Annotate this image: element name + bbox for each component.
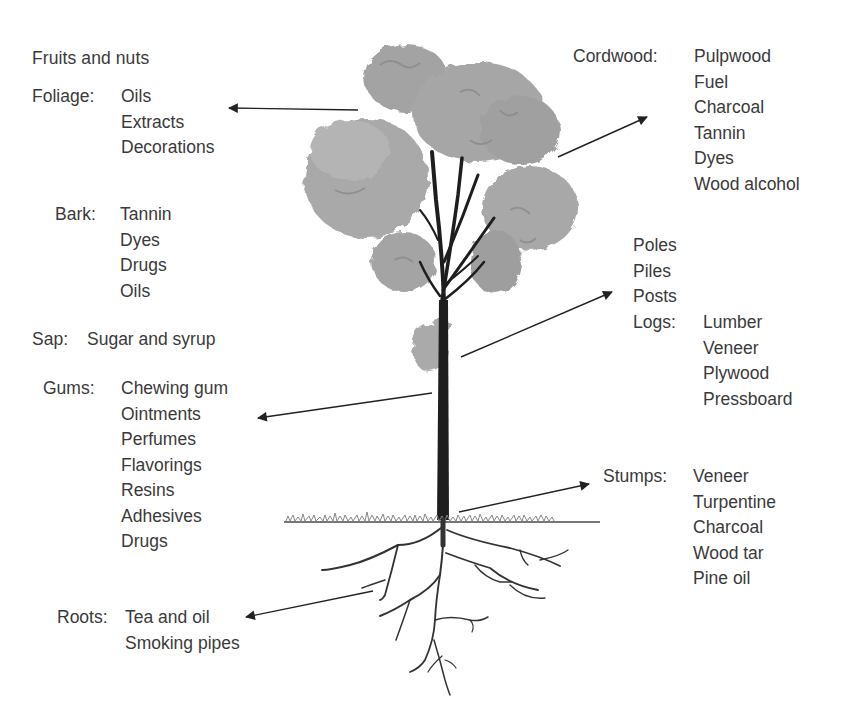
roots-icon <box>322 520 568 695</box>
stumps-item: Veneer <box>693 464 776 490</box>
trunk-product-item: Posts <box>633 284 677 310</box>
bark-label: Bark: <box>55 202 96 228</box>
logs-item: Pressboard <box>703 387 793 413</box>
logs-item: Lumber <box>703 310 793 336</box>
logs-label: Logs: <box>633 310 676 336</box>
bark-item: Drugs <box>120 253 172 279</box>
gums-item: Perfumes <box>121 427 228 453</box>
gums-item: Drugs <box>121 529 228 555</box>
gums-item: Ointments <box>121 402 228 428</box>
bark-item: Tannin <box>120 202 172 228</box>
tree-products-diagram: Fruits and nuts Foliage: Oils Extracts D… <box>0 0 852 706</box>
cordwood-item: Tannin <box>694 121 800 147</box>
logs-item: Plywood <box>703 361 793 387</box>
logs-arrow <box>461 292 612 357</box>
bark-item: Dyes <box>120 228 172 254</box>
cordwood-item: Dyes <box>694 146 800 172</box>
gums-arrow <box>258 393 432 418</box>
stumps-item: Charcoal <box>693 515 776 541</box>
logs-item: Veneer <box>703 336 793 362</box>
cordwood-item: Charcoal <box>694 95 800 121</box>
cordwood-arrow <box>558 117 647 157</box>
foliage-item: Extracts <box>121 110 214 136</box>
stumps-arrow <box>459 484 589 512</box>
trunk-product-item: Piles <box>633 259 677 285</box>
stumps-item: Turpentine <box>693 490 776 516</box>
gums-item: Flavorings <box>121 453 228 479</box>
roots-item: Smoking pipes <box>125 631 240 657</box>
sap-item: Sugar and syrup <box>87 327 215 353</box>
foliage-arrow <box>229 108 358 110</box>
cordwood-item: Fuel <box>694 70 800 96</box>
sap-label: Sap: <box>32 327 68 353</box>
stumps-item: Pine oil <box>693 566 776 592</box>
foliage-item: Decorations <box>121 135 214 161</box>
roots-arrow <box>246 591 373 617</box>
foliage-item: Oils <box>121 84 214 110</box>
trunk-product-item: Poles <box>633 233 677 259</box>
gums-item: Chewing gum <box>121 376 228 402</box>
gums-label: Gums: <box>43 376 95 402</box>
trunk-icon <box>437 300 449 520</box>
fruits-and-nuts-label: Fruits and nuts <box>32 46 149 72</box>
roots-item: Tea and oil <box>125 605 240 631</box>
gums-item: Resins <box>121 478 228 504</box>
stumps-item: Wood tar <box>693 541 776 567</box>
bark-item: Oils <box>120 279 172 305</box>
gums-item: Adhesives <box>121 504 228 530</box>
cordwood-item: Wood alcohol <box>694 172 800 198</box>
cordwood-label: Cordwood: <box>573 44 658 70</box>
cordwood-item: Pulpwood <box>694 44 800 70</box>
stumps-label: Stumps: <box>603 464 667 490</box>
foliage-label: Foliage: <box>32 84 94 110</box>
roots-label: Roots: <box>57 605 108 631</box>
